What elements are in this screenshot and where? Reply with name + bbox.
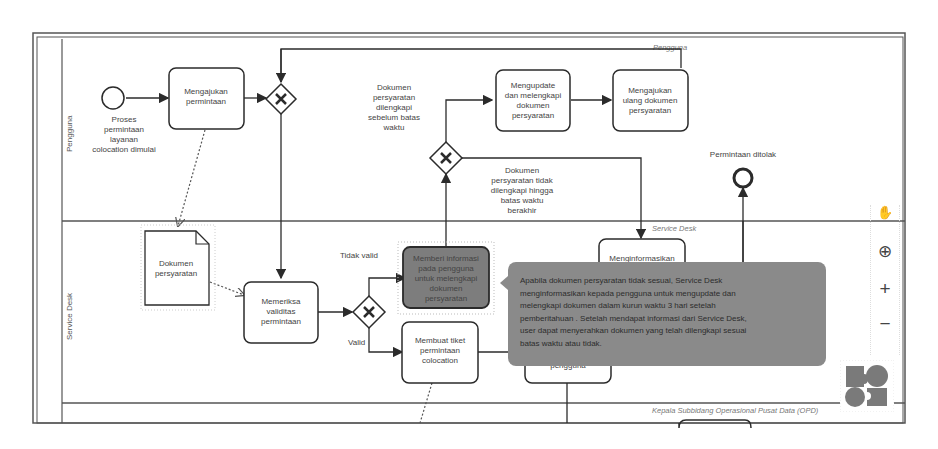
center-view-icon[interactable]: ⊕ xyxy=(871,241,899,262)
task-label: ulang dokumen xyxy=(623,96,678,105)
svg-text:berakhir: berakhir xyxy=(508,206,537,215)
puzzle-icon xyxy=(840,360,894,412)
task-label: dokumen xyxy=(517,101,550,110)
svg-text:dilengkapi hingga: dilengkapi hingga xyxy=(491,186,554,195)
task-label: Memberi informasi xyxy=(413,254,479,263)
task-label: permintaan xyxy=(186,97,226,106)
task-kasubbid-partial[interactable] xyxy=(679,420,751,428)
tooltip-arrow xyxy=(500,276,508,290)
task-label: Mengupdate xyxy=(511,81,556,90)
task-label: persyaratan xyxy=(425,294,467,303)
flow-label-tidak-dilengkapi: Dokumen persyaratan tidak dilengkapi hin… xyxy=(491,166,554,215)
start-event-label-4: colocation dimulai xyxy=(92,145,156,154)
svg-text:persyaratan tidak: persyaratan tidak xyxy=(491,176,553,185)
task-label: Memeriksa xyxy=(261,297,301,306)
tooltip-line: user dapat menyerahkan dokumen yang tela… xyxy=(520,325,812,338)
task-memeriksa-validitas[interactable]: Memeriksa validitas permintaan xyxy=(244,282,318,343)
svg-text:persyaratan: persyaratan xyxy=(373,93,415,102)
flow-label-dilengkapi: Dokumen persyaratan dilengkapi sebelum b… xyxy=(368,83,420,132)
task-mengajukan-permintaan[interactable]: Mengajukan permintaan xyxy=(169,68,244,129)
task-label: permintaan xyxy=(261,317,301,326)
tooltip-line: Apabila dokumen persyaratan tidak sesuai… xyxy=(520,275,812,288)
exclusive-gateway-2[interactable] xyxy=(430,142,462,174)
tooltip-line: menginformasikan kepada pengguna untuk m… xyxy=(520,288,812,301)
associations xyxy=(178,130,432,423)
lane-label-service-desk: Service Desk xyxy=(65,292,74,340)
navigation-controls: ✋ ⊕ + − xyxy=(870,205,900,355)
task-label: Mengajukan xyxy=(184,87,228,96)
lane-title-pengguna: Pengguna xyxy=(653,43,687,52)
task-label: dan melengkapi xyxy=(505,91,562,100)
data-object-label: Dokumen xyxy=(159,259,193,268)
svg-text:Dokumen: Dokumen xyxy=(377,83,411,92)
start-event[interactable] xyxy=(102,87,124,109)
svg-text:batas waktu: batas waktu xyxy=(501,196,544,205)
task-memberi-informasi[interactable]: Memberi informasi pada pengguna untuk me… xyxy=(398,242,494,314)
task-description-tooltip: Apabila dokumen persyaratan tidak sesuai… xyxy=(508,262,826,366)
minimap-toggle[interactable] xyxy=(840,360,894,412)
tooltip-line: melengkapi dokumen dalam kurun waktu 3 h… xyxy=(520,300,812,313)
data-object-dokumen-persyaratan[interactable]: Dokumen persyaratan xyxy=(141,225,215,310)
svg-text:Dokumen: Dokumen xyxy=(505,166,539,175)
task-label: Membuat tiket xyxy=(415,336,466,345)
task-label: dokumen xyxy=(430,284,463,293)
lane-label-pengguna: Pengguna xyxy=(65,115,74,152)
bpmn-canvas[interactable]: Pengguna Service Desk Pengguna Service D… xyxy=(0,0,938,449)
zoom-in-button[interactable]: + xyxy=(871,278,899,300)
task-mengajukan-ulang-dokumen[interactable]: Mengajukan ulang dokumen persyaratan xyxy=(613,70,688,131)
start-event-label-2: permintaan xyxy=(104,125,144,134)
end-event[interactable] xyxy=(734,169,752,187)
zoom-out-button[interactable]: − xyxy=(871,313,899,335)
task-membuat-tiket[interactable]: Membuat tiket permintaan colocation xyxy=(402,322,478,383)
task-label: validitas xyxy=(267,307,296,316)
svg-text:waktu: waktu xyxy=(383,123,405,132)
start-event-label-1: Proses xyxy=(112,115,137,124)
exclusive-gateway-1[interactable] xyxy=(266,84,296,114)
start-event-label-3: layanan xyxy=(110,135,138,144)
task-label: Mengajukan xyxy=(628,86,672,95)
data-object-label: persyaratan xyxy=(155,269,197,278)
task-label: persyaratan xyxy=(629,106,671,115)
lane-title-service-desk: Service Desk xyxy=(652,224,697,233)
task-label: colocation xyxy=(422,356,458,365)
flow-label-valid: Valid xyxy=(348,338,365,347)
task-label: pada pengguna xyxy=(418,264,474,273)
svg-text:dilengkapi: dilengkapi xyxy=(376,103,412,112)
end-event-label: Permintaan ditolak xyxy=(710,150,777,159)
task-mengupdate-dokumen[interactable]: Mengupdate dan melengkapi dokumen persya… xyxy=(496,70,570,131)
exclusive-gateway-3[interactable] xyxy=(353,296,385,328)
svg-text:sebelum batas: sebelum batas xyxy=(368,113,420,122)
task-label: permintaan xyxy=(420,346,460,355)
tooltip-line: batas waktu atau tidak. xyxy=(520,338,812,351)
task-label: persyaratan xyxy=(512,111,554,120)
lane-title-kasubbid: Kepala Subbidang Operasional Pusat Data … xyxy=(652,406,819,415)
tooltip-line: pemberitahuan . Setelah mendapat informa… xyxy=(520,313,812,326)
flow-label-tidak-valid: Tidak valid xyxy=(340,251,378,260)
task-label: untuk melengkapi xyxy=(415,274,478,283)
pan-hand-icon[interactable]: ✋ xyxy=(871,205,899,220)
